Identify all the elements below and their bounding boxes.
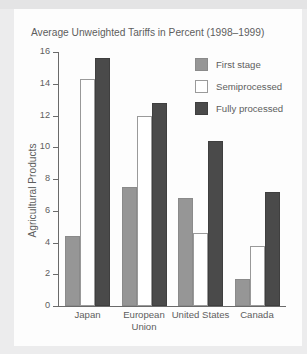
legend-label: First stage bbox=[216, 59, 261, 70]
legend-swatch-icon bbox=[195, 102, 208, 115]
bar bbox=[193, 233, 208, 306]
legend-item[interactable]: Semiprocessed bbox=[195, 75, 299, 97]
legend-item[interactable]: First stage bbox=[195, 53, 299, 75]
chart-legend: First stageSemiprocessedFully processed bbox=[195, 53, 299, 119]
legend-item[interactable]: Fully processed bbox=[195, 97, 299, 119]
x-axis-category-labels: JapanEuropeanUnionUnited StatesCanada bbox=[58, 309, 290, 343]
legend-swatch-icon bbox=[195, 58, 208, 71]
legend-swatch-icon bbox=[195, 80, 208, 93]
y-axis-label: Agricultural Products bbox=[27, 111, 38, 271]
bar-group bbox=[65, 52, 110, 306]
bar bbox=[80, 79, 95, 306]
bar bbox=[152, 103, 167, 306]
y-axis-tick-label: 16 bbox=[40, 46, 50, 56]
chart-title: Average Unweighted Tariffs in Percent (1… bbox=[31, 27, 289, 38]
legend-label: Semiprocessed bbox=[216, 81, 282, 92]
chart-figure-panel: Average Unweighted Tariffs in Percent (1… bbox=[14, 9, 302, 346]
y-axis-tick-label: 4 bbox=[45, 237, 50, 247]
y-axis-tick-label: 0 bbox=[45, 300, 50, 310]
bar bbox=[122, 187, 137, 306]
y-axis-tick-label: 2 bbox=[45, 268, 50, 278]
y-axis-tick-label: 12 bbox=[40, 110, 50, 120]
y-axis-tick: 4 bbox=[53, 243, 58, 244]
bar bbox=[208, 141, 223, 306]
scan-top-artifact-strip bbox=[0, 0, 307, 9]
y-axis-tick: 6 bbox=[53, 211, 58, 212]
y-axis-tick-label: 8 bbox=[45, 173, 50, 183]
y-axis-tick: 10 bbox=[53, 147, 58, 148]
y-axis-tick-label: 6 bbox=[45, 205, 50, 215]
x-axis-label: Canada bbox=[221, 309, 293, 321]
x-axis-label-line: Union bbox=[108, 321, 180, 333]
bar bbox=[95, 58, 110, 306]
x-axis-label-line: Canada bbox=[221, 309, 293, 321]
y-axis-tick-label: 14 bbox=[40, 78, 50, 88]
y-axis-tick: 2 bbox=[53, 274, 58, 275]
y-axis-tick: 14 bbox=[53, 84, 58, 85]
y-axis-tick-label: 10 bbox=[40, 141, 50, 151]
bar bbox=[250, 246, 265, 306]
y-axis-tick: 8 bbox=[53, 179, 58, 180]
y-axis-tick: 16 bbox=[53, 52, 58, 53]
bar bbox=[178, 198, 193, 306]
bar bbox=[265, 192, 280, 306]
y-axis-tick: 0 bbox=[53, 306, 58, 307]
x-axis-line bbox=[58, 306, 286, 307]
bar bbox=[235, 279, 250, 306]
bar bbox=[137, 116, 152, 307]
legend-label: Fully processed bbox=[216, 103, 283, 114]
bar-group bbox=[122, 52, 167, 306]
bar bbox=[65, 236, 80, 306]
y-axis-tick: 12 bbox=[53, 116, 58, 117]
